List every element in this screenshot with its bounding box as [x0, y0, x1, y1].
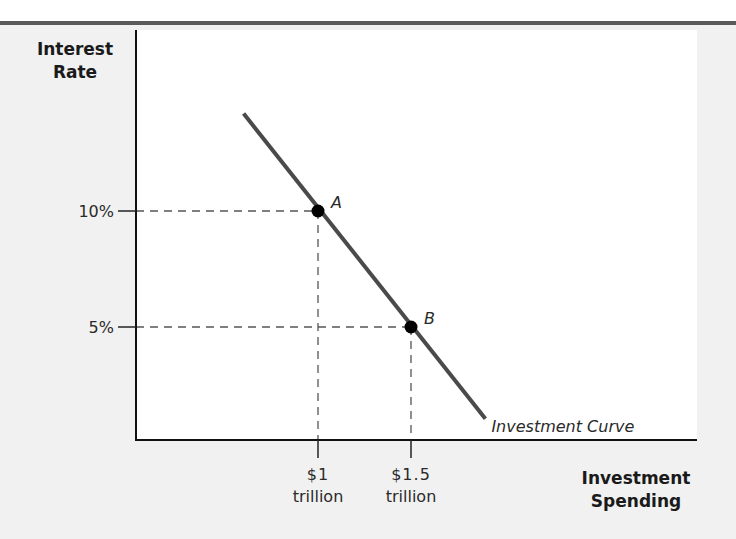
y-axis-title-line2: Rate [53, 62, 97, 82]
x-tick-label-amount: $1 [307, 465, 329, 484]
x-tick-label-unit: trillion [386, 487, 437, 506]
point-a [312, 205, 325, 218]
axis-ticks: 10%5%$1trillion$1.5trillion [78, 202, 436, 506]
series-group: Investment Curve [244, 114, 635, 436]
investment-curve-line [244, 114, 486, 419]
y-axis-title-line1: Interest [37, 39, 113, 59]
point-label-a: A [330, 193, 342, 212]
investment-curve-chart: 10%5%$1trillion$1.5trillion Investment C… [0, 0, 736, 539]
x-tick-label-unit: trillion [293, 487, 344, 506]
x-tick-label-amount: $1.5 [391, 465, 431, 484]
y-tick-label: 5% [89, 318, 114, 337]
points-group: AB [312, 193, 435, 334]
guide-lines [136, 211, 411, 440]
x-axis-title-line1: Investment [582, 468, 691, 488]
y-tick-label: 10% [78, 202, 114, 221]
point-label-b: B [424, 309, 435, 328]
x-axis-title-line2: Spending [591, 491, 681, 511]
investment-curve-label: Investment Curve [491, 417, 634, 436]
point-b [405, 321, 418, 334]
axes [135, 30, 697, 441]
